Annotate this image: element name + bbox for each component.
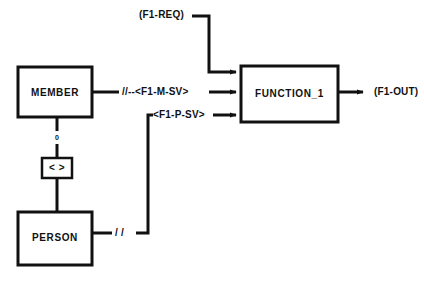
entity-person[interactable]: PERSON bbox=[18, 212, 92, 265]
flow-f1-req-label: (F1-REQ) bbox=[139, 9, 184, 20]
flow-f1-out[interactable]: (F1-OUT) bbox=[338, 86, 418, 97]
relationship-box-label: < > bbox=[49, 162, 65, 173]
entity-person-label: PERSON bbox=[32, 232, 78, 243]
process-function-1-label: FUNCTION_1 bbox=[255, 88, 324, 99]
flow-person-slashes-label: / / bbox=[115, 227, 124, 238]
flow-f1-p-sv[interactable]: / / <F1-P-SV> bbox=[92, 109, 236, 238]
relationship-member-person[interactable]: 0 < > bbox=[42, 117, 72, 212]
flow-f1-p-sv-label: <F1-P-SV> bbox=[153, 109, 205, 120]
flow-f1-m-sv[interactable]: //--<F1-M-SV> bbox=[92, 86, 236, 97]
diagram-svg: (F1-REQ) MEMBER //--<F1-M-SV> 0 < > PERS… bbox=[0, 0, 424, 281]
entity-member[interactable]: MEMBER bbox=[18, 67, 92, 117]
entity-member-label: MEMBER bbox=[31, 87, 79, 98]
flow-f1-m-sv-label: //--<F1-M-SV> bbox=[122, 86, 189, 97]
flow-f1-req-line bbox=[192, 16, 236, 72]
flow-f1-req[interactable]: (F1-REQ) bbox=[139, 9, 236, 72]
process-function-1[interactable]: FUNCTION_1 bbox=[241, 66, 338, 122]
flow-f1-p-sv-riser bbox=[136, 115, 153, 233]
diagram-canvas: (F1-REQ) MEMBER //--<F1-M-SV> 0 < > PERS… bbox=[0, 0, 424, 281]
flow-f1-out-label: (F1-OUT) bbox=[374, 86, 418, 97]
relationship-cardinality-marker: 0 bbox=[55, 134, 59, 141]
